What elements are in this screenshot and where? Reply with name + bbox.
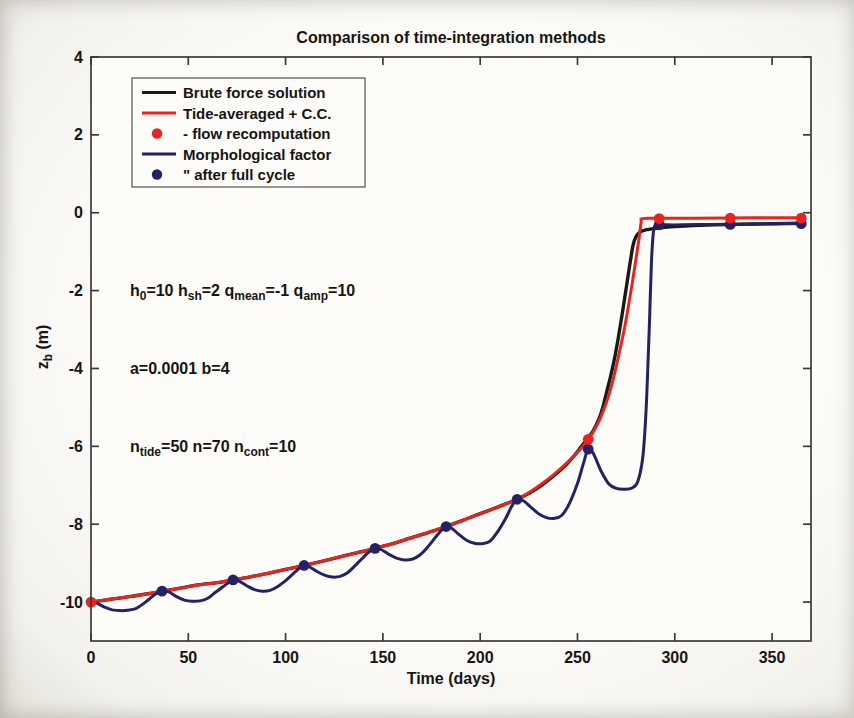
- x-tick-label: 250: [564, 649, 591, 666]
- annotation-text: =50 n=70 n: [161, 438, 244, 455]
- annotation-text: =10: [328, 282, 355, 299]
- annotation-text: =-1 q: [266, 282, 304, 299]
- annotation: a=0.0001 b=4: [130, 360, 230, 377]
- annotation-text: =10 h: [146, 282, 187, 299]
- annotation-text: z: [34, 361, 51, 369]
- legend-label: " after full cycle: [183, 166, 295, 183]
- y-tick-label: 0: [74, 204, 83, 221]
- marker-dot-flow-recomputation: [583, 434, 594, 445]
- annotation-text: a=0.0001 b=4: [130, 360, 230, 377]
- marker-dot-after-full-cycle: [583, 444, 594, 455]
- legend-dot-sample: [152, 169, 162, 179]
- y-tick-label: -4: [69, 360, 83, 377]
- marker-dot-flow-recomputation: [796, 213, 807, 224]
- marker-dot-flow-recomputation: [725, 213, 736, 224]
- marker-dot-after-full-cycle: [157, 586, 168, 597]
- subscript-text: tide: [140, 445, 162, 459]
- annotation-text: =2 q: [202, 282, 234, 299]
- legend-label: - flow recomputation: [183, 125, 331, 142]
- subscript-text: b: [41, 354, 55, 361]
- x-tick-label: 0: [87, 649, 96, 666]
- x-tick-label: 50: [179, 649, 197, 666]
- y-axis-label: zb (m): [34, 325, 55, 370]
- y-tick-label: -10: [60, 594, 83, 611]
- x-tick-label: 150: [370, 649, 397, 666]
- subscript-text: sh: [188, 289, 202, 303]
- x-tick-label: 100: [272, 649, 299, 666]
- y-tick-label: 4: [74, 49, 83, 66]
- chart-plot: Comparison of time-integration methods 0…: [0, 0, 854, 718]
- annotation-text: (m): [34, 325, 51, 354]
- marker-dot-after-full-cycle: [512, 494, 523, 505]
- y-tick-label: -6: [69, 438, 83, 455]
- legend-label: Tide-averaged + C.C.: [183, 105, 332, 122]
- marker-dot-after-full-cycle: [299, 560, 310, 571]
- legend: Brute force solutionTide-averaged + C.C.…: [132, 78, 365, 187]
- x-tick-label: 200: [467, 649, 494, 666]
- marker-dot-after-full-cycle: [370, 543, 381, 554]
- subscript-text: amp: [303, 289, 328, 303]
- marker-dot-flow-recomputation: [654, 213, 665, 224]
- figure-canvas: Comparison of time-integration methods 0…: [0, 0, 854, 718]
- y-tick-label: 2: [74, 126, 83, 143]
- x-tick-label: 350: [759, 649, 786, 666]
- marker-dot-after-full-cycle: [228, 574, 239, 585]
- legend-label: Brute force solution: [183, 84, 326, 101]
- chart-title: Comparison of time-integration methods: [296, 29, 605, 46]
- legend-label: Morphological factor: [183, 146, 332, 163]
- y-tick-label: -8: [69, 516, 83, 533]
- annotation-text: h: [130, 282, 140, 299]
- x-tick-label: 300: [661, 649, 688, 666]
- x-axis-label: Time (days): [407, 670, 496, 687]
- subscript-text: cont: [244, 445, 269, 459]
- legend-dot-sample: [152, 128, 162, 138]
- marker-dot-after-full-cycle: [441, 521, 452, 532]
- annotation-text: n: [130, 438, 140, 455]
- annotation-text: =10: [269, 438, 296, 455]
- subscript-text: mean: [234, 289, 265, 303]
- y-tick-label: -2: [69, 282, 83, 299]
